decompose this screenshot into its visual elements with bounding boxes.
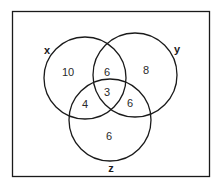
venn-diagram: x y z 10 8 6 6 4 6 3 <box>0 0 221 183</box>
region-z-only: 6 <box>106 130 112 142</box>
region-y-only: 8 <box>143 64 149 76</box>
set-label-z: z <box>108 162 114 174</box>
frame-border <box>13 12 210 177</box>
region-y-and-z: 6 <box>127 97 133 109</box>
set-label-y: y <box>174 43 181 55</box>
region-x-y-z: 3 <box>104 86 110 98</box>
set-label-x: x <box>44 44 51 56</box>
region-x-and-y: 6 <box>104 66 110 78</box>
region-x-and-z: 4 <box>82 98 88 110</box>
region-x-only: 10 <box>62 66 74 78</box>
